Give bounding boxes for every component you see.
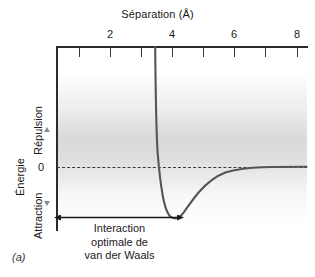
annotation-line-3: van der Waals (47, 249, 192, 263)
y-axis-title: Énergie (14, 158, 26, 196)
energy-gradient-background (57, 47, 307, 230)
figure-panel-a: Séparation (Å) 2 4 6 8 Énergie Répulsion… (0, 0, 315, 277)
plot-area (57, 47, 307, 230)
x-tick-label-2: 2 (100, 28, 120, 40)
x-axis-line (57, 46, 308, 48)
x-tick-label-8: 8 (287, 28, 307, 40)
x-tick-3 (141, 48, 142, 57)
x-tick-5 (203, 48, 204, 57)
y-axis-label-attraction: Attraction (32, 193, 44, 239)
annotation-line-2: optimale de (47, 236, 192, 250)
x-tick-8 (297, 48, 298, 57)
repulsion-up-arrow-icon (44, 127, 50, 132)
zero-energy-dashed-line (57, 167, 307, 168)
optimal-interaction-annotation: Interaction optimale de van der Waals (47, 222, 192, 263)
x-tick-2 (110, 48, 111, 57)
x-tick-label-4: 4 (162, 28, 182, 40)
panel-label: (a) (12, 251, 25, 263)
x-axis-title: Séparation (Å) (0, 8, 315, 20)
y-axis-line (56, 46, 58, 231)
y-axis-label-zero: 0 (38, 161, 44, 173)
y-axis-label-repulsion: Répulsion (32, 106, 44, 155)
x-tick-7 (265, 48, 266, 57)
attraction-down-arrow-icon (44, 201, 50, 206)
x-tick-4 (172, 48, 173, 57)
x-tick-1 (79, 48, 80, 57)
x-tick-label-6: 6 (224, 28, 244, 40)
annotation-line-1: Interaction (47, 222, 192, 236)
x-tick-6 (234, 48, 235, 57)
